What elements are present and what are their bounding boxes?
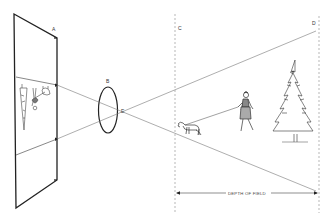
leash: [185, 107, 238, 125]
dog: [178, 122, 201, 135]
label-c: C: [178, 25, 182, 31]
inverted-image-on-film: [20, 84, 50, 130]
label-d: D: [312, 20, 316, 26]
label-a: A: [52, 26, 56, 32]
film-plane: [14, 14, 57, 208]
woman-with-leash: [238, 92, 253, 132]
label-b: B: [106, 78, 110, 84]
depth-of-field-diagram: A B E C D: [0, 0, 331, 221]
image-frame-lines: [16, 77, 58, 155]
pine-tree: [273, 60, 313, 142]
depth-of-field-label: DEPTH OF FIELD: [228, 191, 266, 196]
lens: [99, 87, 118, 133]
light-rays: [57, 31, 316, 191]
